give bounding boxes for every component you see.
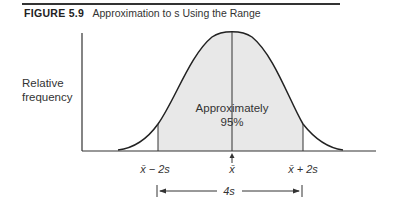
left-arrow-icon: [159, 189, 166, 194]
right-marker-label: x̄ + 2s: [287, 163, 318, 175]
span-label: 4s: [223, 185, 235, 197]
right-arrow-icon: [293, 189, 300, 194]
normal-curve-diagram: Relative frequency Approximately 95% x̄ …: [0, 0, 394, 209]
ylabel-line1: Relative: [22, 77, 64, 89]
left-marker-label: x̄ − 2s: [139, 163, 170, 175]
shaded-area: [158, 32, 303, 151]
area-label-line2: 95%: [220, 116, 243, 128]
area-label-line1: Approximately: [196, 102, 269, 114]
mean-arrow-icon: [230, 153, 235, 158]
ylabel-line2: frequency: [22, 91, 73, 103]
mean-marker-label: x̄: [228, 163, 235, 175]
